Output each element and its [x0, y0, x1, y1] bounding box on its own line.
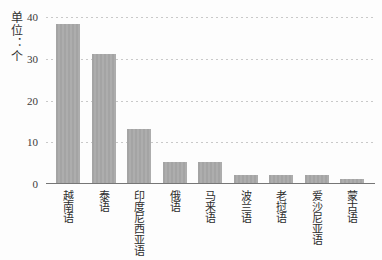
y-tick-label-10: 10: [0, 136, 38, 148]
x-category-label-印度尼西亚语: 印度尼西亚语: [132, 190, 145, 256]
x-category-label-蒙古语: 蒙古语: [345, 190, 358, 223]
y-tick-label-30: 30: [0, 53, 38, 65]
x-category-label-爱沙尼亚语: 爱沙尼亚语: [310, 190, 323, 245]
x-category-label-俄语: 俄语: [168, 190, 181, 212]
y-tick-label-40: 40: [0, 11, 38, 23]
x-category-label-老挝语: 老挝语: [274, 190, 287, 223]
gridline-40: [46, 17, 375, 18]
y-tick-label-20: 20: [0, 95, 38, 107]
y-tick-label-0: 0: [0, 178, 38, 190]
bar-俄语: [163, 162, 187, 183]
x-category-label-泰语: 泰语: [97, 190, 110, 212]
x-category-label-越南语: 越南语: [61, 190, 74, 223]
x-axis-line: [46, 183, 375, 184]
bar-越南语: [56, 24, 80, 183]
x-category-label-马来语: 马来语: [203, 190, 216, 223]
bar-马来语: [198, 162, 222, 183]
bar-chart: 单位：个 010203040越南语泰语印度尼西亚语俄语马来语波兰语老挝语爱沙尼亚…: [0, 0, 382, 260]
bar-印度尼西亚语: [127, 129, 151, 183]
bar-泰语: [92, 54, 116, 183]
bar-蒙古语: [340, 179, 364, 183]
bar-老挝语: [269, 175, 293, 183]
x-category-label-波兰语: 波兰语: [239, 190, 252, 223]
plot-area: [46, 17, 375, 184]
bar-爱沙尼亚语: [305, 175, 329, 183]
bar-波兰语: [234, 175, 258, 183]
